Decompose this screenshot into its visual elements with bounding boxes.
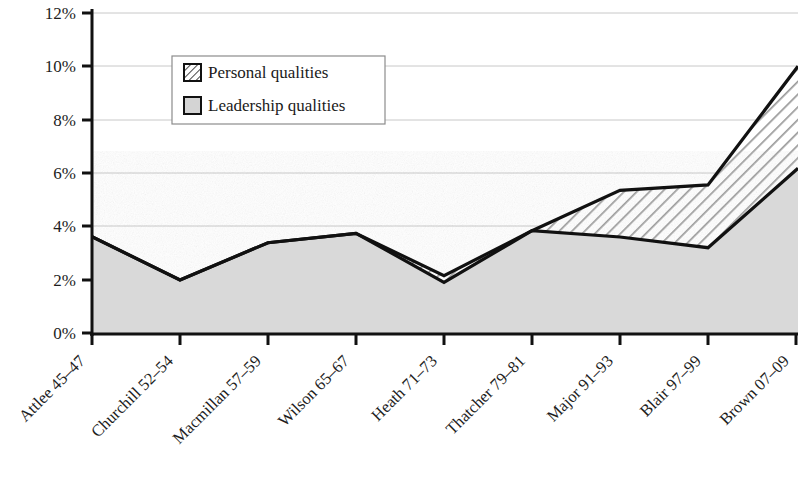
legend-swatch-personal-qualities <box>184 64 201 81</box>
xtick-label: Wilson 65–67 <box>274 351 353 430</box>
x-axis <box>90 334 798 345</box>
legend-swatch-leadership-qualities <box>184 97 201 114</box>
ytick-label: 0% <box>53 324 76 343</box>
xtick-label: Macmillan 57–59 <box>169 351 265 447</box>
legend-label-leadership-qualities: Leadership qualities <box>208 96 345 115</box>
ytick-label: 6% <box>53 164 76 183</box>
chart-legend: Personal qualities Leadership qualities <box>172 56 385 124</box>
chart-canvas: 12% 10% 8% 6% 4% 2% 0% Attlee 45–47 Chur… <box>0 0 798 481</box>
ytick-label: 4% <box>53 217 76 236</box>
xtick-label: Thatcher 79–81 <box>442 351 529 438</box>
legend-label-personal-qualities: Personal qualities <box>208 63 328 82</box>
xtick-label: Major 91–93 <box>543 351 617 425</box>
ytick-label: 2% <box>53 271 76 290</box>
x-axis-labels: Attlee 45–47 Churchill 52–54 Macmillan 5… <box>15 351 793 447</box>
xtick-label: Blair 97–99 <box>636 351 705 420</box>
xtick-label: Heath 71–73 <box>367 351 440 424</box>
xtick-label: Attlee 45–47 <box>15 351 89 425</box>
xtick-label: Brown 07–09 <box>716 351 793 428</box>
y-axis: 12% 10% 8% 6% 4% 2% 0% <box>45 4 92 343</box>
ytick-label: 8% <box>53 111 76 130</box>
ytick-label: 10% <box>45 57 76 76</box>
stacked-area-chart: 12% 10% 8% 6% 4% 2% 0% Attlee 45–47 Chur… <box>0 0 798 481</box>
xtick-label: Churchill 52–54 <box>87 351 177 441</box>
ytick-label: 12% <box>45 4 76 23</box>
